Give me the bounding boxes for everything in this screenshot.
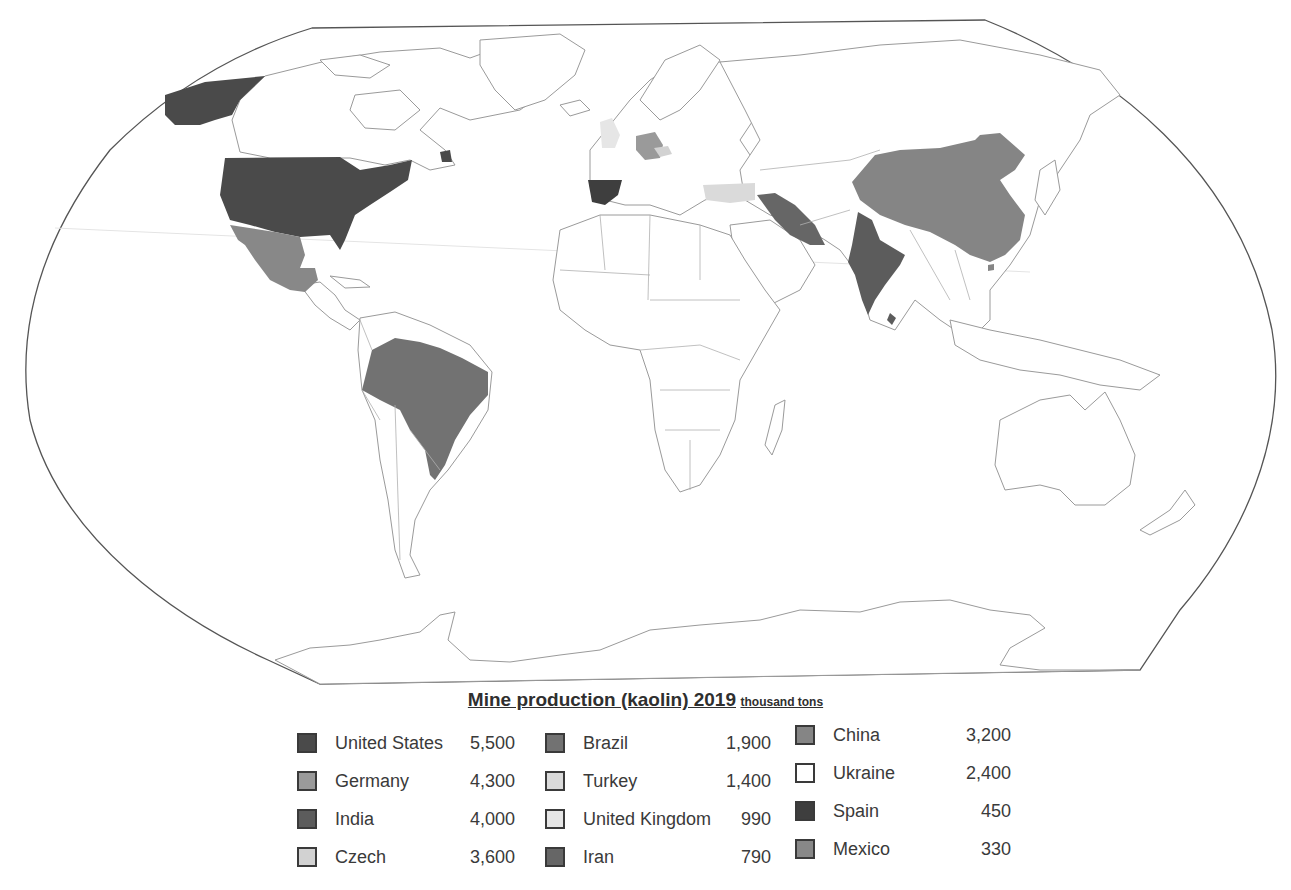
legend-country: United Kingdom xyxy=(583,809,711,830)
legend-value: 3,600 xyxy=(470,847,515,868)
legend-column-2: Brazil 1,900 Turkey 1,400 United Kingdom… xyxy=(545,724,771,876)
legend-swatch xyxy=(297,771,317,791)
legend-swatch xyxy=(795,725,815,745)
legend-value: 1,900 xyxy=(726,733,771,754)
legend-item: United Kingdom 990 xyxy=(545,800,771,838)
legend-column-1: United States 5,500 Germany 4,300 India … xyxy=(297,724,515,876)
legend-country: China xyxy=(833,725,880,746)
legend-item: Brazil 1,900 xyxy=(545,724,771,762)
legend-country: Spain xyxy=(833,801,879,822)
country-canada-east xyxy=(440,150,452,162)
world-map xyxy=(0,0,1291,690)
legend-value: 790 xyxy=(741,847,771,868)
legend-country: United States xyxy=(335,733,443,754)
legend-value: 1,400 xyxy=(726,771,771,792)
legend-item: China 3,200 xyxy=(795,716,1011,754)
legend-item: Iran 790 xyxy=(545,838,771,876)
legend-title-unit: thousand tons xyxy=(740,695,823,709)
legend-value: 5,500 xyxy=(470,733,515,754)
legend-country: Germany xyxy=(335,771,409,792)
legend-country: Mexico xyxy=(833,839,890,860)
legend-swatch xyxy=(795,801,815,821)
legend-swatch xyxy=(545,733,565,753)
legend-value: 990 xyxy=(741,809,771,830)
legend-item: Czech 3,600 xyxy=(297,838,515,876)
legend-country: Brazil xyxy=(583,733,628,754)
legend-title-main: Mine production (kaolin) 2019 xyxy=(468,689,736,710)
country-turkey xyxy=(703,183,755,203)
legend-item: United States 5,500 xyxy=(297,724,515,762)
legend-value: 4,000 xyxy=(470,809,515,830)
legend-country: Czech xyxy=(335,847,386,868)
country-hainan xyxy=(988,264,994,271)
legend-value: 3,200 xyxy=(966,725,1011,746)
legend-column-3: China 3,200 Ukraine 2,400 Spain 450 Mexi… xyxy=(795,716,1011,868)
legend-item: Mexico 330 xyxy=(795,830,1011,868)
legend-country: Iran xyxy=(583,847,614,868)
legend-swatch xyxy=(545,847,565,867)
legend-item: Turkey 1,400 xyxy=(545,762,771,800)
legend-item: Spain 450 xyxy=(795,792,1011,830)
legend-swatch xyxy=(795,839,815,859)
legend-swatch xyxy=(297,809,317,829)
legend-item: India 4,000 xyxy=(297,800,515,838)
legend-swatch xyxy=(795,763,815,783)
legend-swatch xyxy=(297,733,317,753)
legend-swatch xyxy=(545,771,565,791)
legend-value: 330 xyxy=(981,839,1011,860)
legend-item: Ukraine 2,400 xyxy=(795,754,1011,792)
legend-country: Ukraine xyxy=(833,763,895,784)
legend-item: Germany 4,300 xyxy=(297,762,515,800)
legend-title: Mine production (kaolin) 2019 thousand t… xyxy=(0,689,1291,711)
legend-swatch xyxy=(545,809,565,829)
legend-swatch xyxy=(297,847,317,867)
legend-value: 450 xyxy=(981,801,1011,822)
legend-country: India xyxy=(335,809,374,830)
legend-value: 2,400 xyxy=(966,763,1011,784)
legend-country: Turkey xyxy=(583,771,637,792)
legend-value: 4,300 xyxy=(470,771,515,792)
